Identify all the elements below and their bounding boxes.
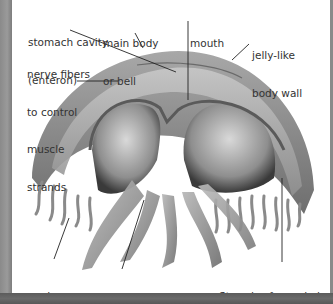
label-line: stinging (77, 291, 125, 293)
label-mouth: mouth (190, 12, 224, 75)
label-line: jelly-like (252, 49, 302, 62)
image-frame-left (0, 0, 12, 304)
label-line: strands (27, 181, 90, 194)
label-line: or bell (103, 75, 159, 88)
label-muscle-strands: Strands of muscle in bell rim for swimmi… (212, 265, 327, 293)
label-oral-arms: oral arms (30, 265, 56, 293)
label-jelly-wall: jelly-like body wall (252, 24, 302, 124)
image-frame-bottom (0, 293, 333, 304)
label-line: oral (30, 290, 56, 293)
label-stinging-tentacles: stinging tentacles (77, 266, 125, 293)
label-main-body: main body or bell (103, 12, 159, 112)
diagram-panel: stomach cavity (enteron) main body or be… (12, 0, 330, 293)
label-line: to control (27, 106, 90, 119)
label-line: main body (103, 37, 159, 50)
label-line: nerve fibers (27, 68, 90, 81)
label-line: mouth (190, 37, 224, 50)
label-line: Strands of muscle in (212, 290, 327, 293)
label-nerve-fibers: nerve fibers to control muscle strands (27, 43, 90, 218)
label-line: body wall (252, 87, 302, 100)
label-line: muscle (27, 143, 90, 156)
leader-jelly-wall (232, 44, 249, 60)
